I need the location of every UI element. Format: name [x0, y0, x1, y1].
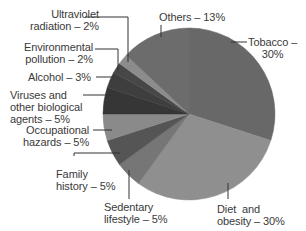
label-family: Family history – 5% [56, 168, 115, 192]
label-occupational: Occupational hazards – 5% [23, 124, 89, 148]
label-family-line1: Family [56, 168, 115, 180]
label-uv: Ultraviolet radiation – 2% [30, 8, 99, 32]
label-diet-line2: obesity – 30% [217, 215, 285, 227]
label-alcohol: Alcohol – 3% [28, 71, 91, 83]
label-diet: Diet and obesity – 30% [217, 203, 285, 227]
label-family-line2: history – 5% [56, 180, 115, 192]
label-tobacco-line2: 30% [248, 48, 297, 60]
label-env: Environmental pollution – 2% [24, 41, 93, 65]
label-sedentary: Sedentary lifestyle – 5% [104, 201, 167, 225]
label-viruses-line2: other biological [10, 101, 82, 113]
label-occ-line2: hazards – 5% [23, 136, 89, 148]
label-occ-line1: Occupational [23, 124, 89, 136]
label-uv-line2: radiation – 2% [30, 20, 99, 32]
label-diet-line1: Diet and [217, 203, 285, 215]
label-viruses-line1: Viruses and [10, 89, 82, 101]
label-viruses: Viruses and other biological agents – 5% [10, 89, 82, 125]
label-sed-line1: Sedentary [104, 201, 167, 213]
leader-env [95, 49, 118, 70]
label-others: Others – 13% [159, 11, 225, 23]
label-env-line2: pollution – 2% [24, 53, 93, 65]
label-uv-line1: Ultraviolet [30, 8, 99, 20]
label-tobacco: Tobacco – 30% [248, 36, 297, 60]
label-tobacco-line1: Tobacco – [248, 36, 297, 48]
label-sed-line2: lifestyle – 5% [104, 213, 167, 225]
label-env-line1: Environmental [24, 41, 93, 53]
